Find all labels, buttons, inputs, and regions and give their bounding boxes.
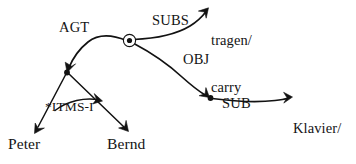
edge-label-subs: SUBS — [152, 13, 189, 29]
semantic-network-diagram: AGT SUBS OBJ SUB *ITMS-I tragen/ carry K… — [0, 0, 356, 164]
node-label-tragen-line2: carry — [211, 80, 252, 96]
edge-label-obj: OBJ — [183, 52, 209, 68]
edge-agt — [65, 36, 126, 73]
edge-label-itms: *ITMS-I — [45, 100, 94, 115]
edge-agt-path — [69, 36, 127, 69]
event-node-dot — [127, 38, 132, 43]
node-label-tragen-carry: tragen/ carry — [211, 2, 252, 127]
node-label-klavier-line1: Klavier/ — [293, 121, 341, 137]
edge-subs-arrowhead — [198, 8, 208, 18]
edge-sub-arrowhead — [284, 92, 293, 103]
node-label-klavier-piano: Klavier/ piano — [293, 90, 341, 164]
node-event — [123, 34, 135, 46]
node-label-tragen-line1: tragen/ — [211, 33, 252, 49]
node-label-bernd: Bernd — [107, 136, 145, 153]
edge-label-agt: AGT — [59, 20, 89, 36]
node-agent-dot — [64, 70, 70, 76]
node-label-peter: Peter — [8, 136, 40, 153]
